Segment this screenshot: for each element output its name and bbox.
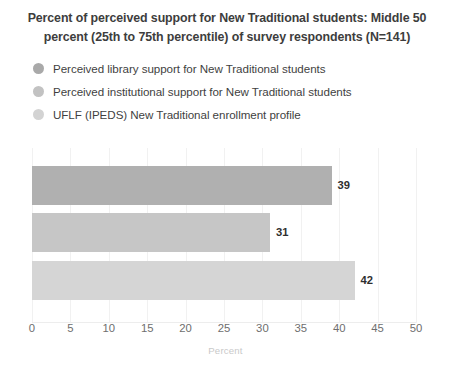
x-axis-tick-label: 10 — [103, 322, 116, 334]
legend-item-label: Perceived library support for New Tradit… — [53, 62, 325, 75]
x-axis-tick-label: 25 — [218, 322, 231, 334]
legend-swatch-circle-icon — [33, 109, 44, 120]
bar-value-label: 31 — [276, 213, 288, 252]
legend-item-label: Perceived institutional support for New … — [53, 85, 352, 98]
bar-enrollment-profile[interactable] — [32, 261, 355, 300]
chart-title-line-1: Percent of perceived support for New Tra… — [28, 11, 427, 25]
x-axis-tick-label: 5 — [67, 322, 73, 334]
x-axis-tick-label: 15 — [141, 322, 154, 334]
plot-area: 39 31 42 — [0, 148, 451, 323]
gridline — [416, 148, 417, 323]
legend-item-library-support[interactable]: Perceived library support for New Tradit… — [33, 57, 433, 80]
x-axis-tick-label: 0 — [29, 322, 35, 334]
bar-institutional-support[interactable] — [32, 213, 270, 252]
x-axis-tick-label: 45 — [371, 322, 384, 334]
x-axis-tick-label: 30 — [256, 322, 269, 334]
x-axis-tick-label: 40 — [333, 322, 346, 334]
chart-title-line-2: percent (25th to 75th percentile) of sur… — [44, 30, 411, 44]
bar-value-label: 39 — [338, 166, 350, 205]
chart-title: Percent of perceived support for New Tra… — [18, 9, 436, 47]
legend-swatch-circle-icon — [33, 86, 44, 97]
bar-value-label: 42 — [361, 261, 373, 300]
bar-library-support[interactable] — [32, 166, 332, 205]
legend-item-institutional-support[interactable]: Perceived institutional support for New … — [33, 80, 433, 103]
x-axis: 05101520253035404550 — [0, 322, 451, 342]
x-axis-tick-label: 50 — [410, 322, 423, 334]
x-axis-tick-label: 35 — [295, 322, 308, 334]
x-axis-tick-label: 20 — [179, 322, 192, 334]
legend-swatch-circle-icon — [33, 63, 44, 74]
legend-item-enrollment-profile[interactable]: UFLF (IPEDS) New Traditional enrollment … — [33, 103, 433, 126]
x-axis-title: Percent — [0, 345, 451, 356]
chart-legend: Perceived library support for New Tradit… — [33, 57, 433, 126]
gridline — [378, 148, 379, 323]
bar-chart-figure: Percent of perceived support for New Tra… — [0, 0, 451, 368]
legend-item-label: UFLF (IPEDS) New Traditional enrollment … — [53, 108, 301, 121]
